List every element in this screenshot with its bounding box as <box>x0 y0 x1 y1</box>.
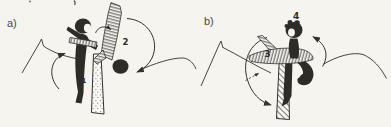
sitting-acrobat-hair <box>288 20 293 25</box>
rotation-arrow-clockwise-a <box>127 19 155 72</box>
inverted-acrobat-body <box>101 3 122 61</box>
horizontal-acrobat-body <box>249 48 313 64</box>
sitting-acrobat-torso <box>289 39 299 59</box>
hanging-figure-head <box>299 73 311 85</box>
panel-a: a) 1 2 <box>7 3 196 115</box>
standing-acrobat-face <box>84 24 91 32</box>
step-label-3: 3 <box>265 49 271 59</box>
scan-speck <box>74 1 75 6</box>
step-label-4: 4 <box>293 11 299 21</box>
book-illustration-page: a) 1 2 <box>0 0 391 127</box>
inverted-acrobat-head <box>113 59 129 74</box>
panel-b: b) 3 4 <box>201 11 387 120</box>
step-label-1: 1 <box>82 77 87 85</box>
rotation-arrow-clockwise-b <box>314 37 326 67</box>
mountain-line-left-a <box>22 39 76 73</box>
acrobat-rotation-diagram: a) 1 2 <box>0 0 391 127</box>
landscape-line-right-b <box>323 54 387 79</box>
step-label-2: 2 <box>123 37 129 47</box>
rotation-arrow-counterclockwise-a <box>52 54 65 90</box>
mountain-line-left-b <box>201 41 223 86</box>
scan-speck <box>29 1 31 3</box>
sitting-acrobat-hair <box>294 20 300 26</box>
sitting-acrobat-face <box>288 29 295 37</box>
panel-a-label: a) <box>7 17 17 29</box>
panel-b-label: b) <box>204 15 214 27</box>
sitting-acrobat-hair <box>285 24 289 28</box>
